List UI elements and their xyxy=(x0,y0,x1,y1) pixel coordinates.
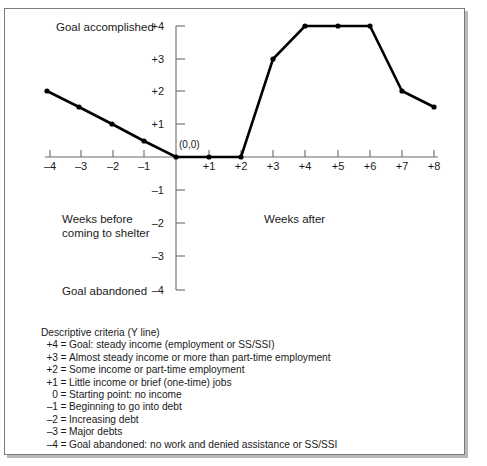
x-tick-label-plus8: +8 xyxy=(420,160,448,172)
goal-abandoned-label: Goal abandoned xyxy=(62,284,147,298)
caption-row-minus2: –2=Increasing debt xyxy=(41,414,451,426)
caption-text: Increasing debt xyxy=(69,414,139,425)
caption-row-minus1: –1=Beginning to go into debt xyxy=(41,401,451,413)
data-point xyxy=(431,104,436,109)
caption-eq: = xyxy=(58,401,69,413)
y-tick-label-plus1: +1 xyxy=(136,118,164,130)
caption-key: +2 xyxy=(41,364,58,376)
caption-key: 0 xyxy=(41,389,58,401)
caption-key: +1 xyxy=(41,377,58,389)
origin-annotation: (0,0) xyxy=(179,139,200,150)
y-tick-label-minus1: –1 xyxy=(136,184,164,196)
caption-text: Almost steady income or more than part-t… xyxy=(69,352,331,363)
caption-key: –4 xyxy=(41,439,58,451)
data-point xyxy=(173,154,178,159)
caption-eq: = xyxy=(58,426,69,438)
y-tick-label-minus3: –3 xyxy=(136,250,164,262)
data-point xyxy=(109,121,114,126)
caption-key: –3 xyxy=(41,426,58,438)
x-tick-label-plus2: +2 xyxy=(227,160,255,172)
weeks-before-line2: coming to shelter xyxy=(62,227,150,239)
caption-text: Starting point: no income xyxy=(69,389,182,400)
goal-accomplished-label: Goal accomplished xyxy=(56,20,154,34)
x-tick-label-minus2: –2 xyxy=(99,160,127,172)
caption-heading: Descriptive criteria (Y line) xyxy=(41,327,451,339)
caption-eq: = xyxy=(58,339,69,351)
x-tick-label-minus4: –4 xyxy=(36,160,64,172)
caption-key: +3 xyxy=(41,352,58,364)
x-tick-label-minus3: –3 xyxy=(67,160,95,172)
caption-text: Beginning to go into debt xyxy=(69,401,182,412)
data-point xyxy=(270,56,275,61)
chart-plot-area: +4 +3 +2 +1 –1 –2 –3 –4 –4 –3 –2 –1 +1 +… xyxy=(5,9,466,319)
x-tick-label-plus6: +6 xyxy=(356,160,384,172)
weeks-after-label: Weeks after xyxy=(264,212,325,226)
caption-eq: = xyxy=(58,389,69,401)
caption-row-zero: 0=Starting point: no income xyxy=(41,389,451,401)
descriptive-criteria-caption: Descriptive criteria (Y line) +4=Goal: s… xyxy=(41,327,451,451)
weeks-before-label: Weeks before coming to shelter xyxy=(62,212,150,241)
caption-key: –1 xyxy=(41,401,58,413)
caption-text: Goal: steady income (employment or SS/SS… xyxy=(69,339,275,350)
data-point xyxy=(399,88,404,93)
caption-row-plus3: +3=Almost steady income or more than par… xyxy=(41,352,451,364)
caption-row-plus1: +1=Little income or brief (one-time) job… xyxy=(41,377,451,389)
caption-row-minus4: –4=Goal abandoned: no work and denied as… xyxy=(41,439,451,451)
x-tick-label-minus1: –1 xyxy=(130,160,158,172)
data-point xyxy=(44,88,49,93)
data-point xyxy=(141,138,146,143)
caption-text: Some income or part-time employment xyxy=(69,364,245,375)
figure-frame: +4 +3 +2 +1 –1 –2 –3 –4 –4 –3 –2 –1 +1 +… xyxy=(4,8,465,455)
caption-eq: = xyxy=(58,439,69,451)
caption-text: Little income or brief (one-time) jobs xyxy=(69,377,232,388)
caption-row-minus3: –3=Major debts xyxy=(41,426,451,438)
data-point xyxy=(76,104,81,109)
caption-row-plus2: +2=Some income or part-time employment xyxy=(41,364,451,376)
caption-eq: = xyxy=(58,352,69,364)
caption-row-plus4: +4=Goal: steady income (employment or SS… xyxy=(41,339,451,351)
x-tick-label-plus1: +1 xyxy=(195,160,223,172)
y-tick-label-plus3: +3 xyxy=(136,53,164,65)
x-tick-label-plus7: +7 xyxy=(388,160,416,172)
weeks-before-line1: Weeks before xyxy=(62,213,133,225)
data-point xyxy=(238,154,243,159)
caption-eq: = xyxy=(58,364,69,376)
caption-key: –2 xyxy=(41,414,58,426)
x-tick-label-plus5: +5 xyxy=(324,160,352,172)
data-point xyxy=(206,154,211,159)
data-point xyxy=(302,23,307,28)
x-tick-label-plus4: +4 xyxy=(291,160,319,172)
data-point xyxy=(367,23,372,28)
caption-text: Major debts xyxy=(69,426,122,437)
caption-eq: = xyxy=(58,377,69,389)
caption-text: Goal abandoned: no work and denied assis… xyxy=(69,439,337,450)
caption-eq: = xyxy=(58,414,69,426)
y-tick-label-plus2: +2 xyxy=(136,85,164,97)
x-tick-label-plus3: +3 xyxy=(259,160,287,172)
data-point xyxy=(335,23,340,28)
data-series-line xyxy=(47,26,434,157)
caption-key: +4 xyxy=(41,339,58,351)
